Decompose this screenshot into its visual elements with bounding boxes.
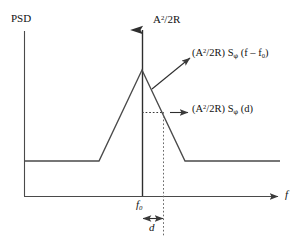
psd-axis-caption: PSD: [11, 13, 31, 24]
psd-curve: [24, 70, 280, 161]
power-axis-label: A2/2R: [153, 14, 180, 25]
skirt-annotation: (A2/2R) Sφ (f – f0): [192, 48, 268, 59]
offset-level-annotation: (A2/2R) Sφ (d): [192, 104, 253, 115]
psd-figure: PSD A2/2R f f0 d (A2/2R) Sφ (f – f0) (A2…: [0, 0, 304, 247]
offset-distance-label: d: [149, 222, 155, 233]
psd-plot-canvas: [0, 0, 304, 247]
skirt-pointer: [152, 58, 190, 89]
frequency-axis-label: f: [285, 189, 288, 200]
carrier-frequency-tick-label: f0: [136, 199, 142, 210]
